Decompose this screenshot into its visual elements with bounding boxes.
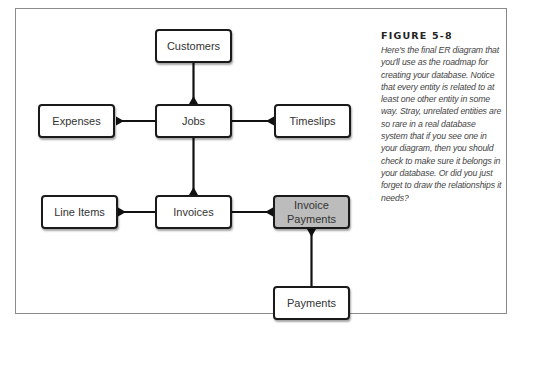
many-end-icon: [307, 229, 316, 237]
many-end-icon: [116, 117, 124, 126]
entity-invoices: Invoices: [155, 195, 232, 229]
many-end-icon: [265, 208, 273, 217]
many-end-icon: [189, 187, 198, 195]
many-end-icon: [189, 96, 198, 104]
entity-line-items: Line Items: [41, 195, 118, 229]
figure-label: FIGURE 5-8: [381, 30, 503, 41]
many-end-icon: [266, 117, 274, 126]
figure-caption-text: Here's the final ER diagram that you'll …: [381, 44, 503, 204]
entity-customers: Customers: [155, 29, 232, 63]
entity-invoice-payments: Invoice Payments: [273, 195, 350, 229]
entity-payments: Payments: [273, 286, 350, 320]
many-end-icon: [118, 208, 126, 217]
entity-timeslips: Timeslips: [274, 104, 351, 138]
entity-expenses: Expenses: [38, 104, 115, 138]
figure-caption: FIGURE 5-8 Here's the final ER diagram t…: [381, 30, 503, 204]
entity-jobs: Jobs: [155, 104, 232, 138]
